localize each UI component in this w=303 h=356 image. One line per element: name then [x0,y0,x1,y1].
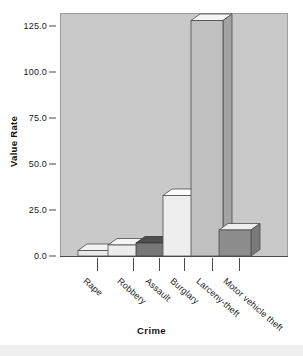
x-tick-mark [133,258,134,271]
x-tick-mark [212,258,213,271]
bar-larceny-theft [191,14,232,256]
x-tick-mark [159,258,160,271]
x-axis-title: Crime [0,325,303,336]
bars-group [0,0,303,300]
x-tick-mark [239,258,240,271]
figure-bottom-margin [0,345,303,356]
bar-motor-vehicle-theft [219,224,260,257]
x-tick-mark [184,258,185,271]
x-tick-mark [97,258,98,271]
bar-chart-figure: 0.0 25.0 50.0 75.0 100.0 125.0 Value Rat… [0,0,303,356]
x-axis-line [60,256,288,257]
